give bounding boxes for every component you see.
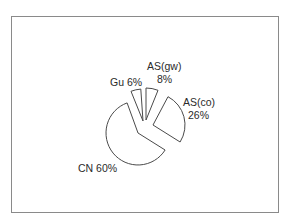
pie-slice-gu: [131, 89, 143, 121]
label-as-gw-value: 8%: [157, 73, 172, 85]
pie-chart: CN 60% Gu 6% AS(gw) 8% AS(co) 26%: [0, 0, 292, 222]
pie-slice-cn: [106, 103, 165, 165]
label-gu: Gu 6%: [110, 76, 142, 88]
label-as-co-value: 26%: [188, 109, 209, 121]
label-as-gw-name: AS(gw): [147, 60, 181, 72]
label-as-co-name: AS(co): [183, 96, 215, 108]
pie-slice-as-gw: [146, 88, 158, 120]
label-cn: CN 60%: [78, 162, 117, 174]
pie-slice-as-co: [153, 97, 185, 142]
